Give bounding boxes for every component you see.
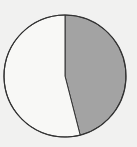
pie-chart — [0, 0, 137, 147]
pie-slices — [4, 15, 126, 137]
